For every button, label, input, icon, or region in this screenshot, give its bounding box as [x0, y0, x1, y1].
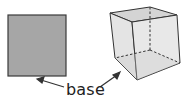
cube — [110, 7, 180, 80]
base-label: base — [66, 80, 105, 99]
arrow-left — [37, 77, 64, 87]
square-base — [8, 15, 66, 76]
